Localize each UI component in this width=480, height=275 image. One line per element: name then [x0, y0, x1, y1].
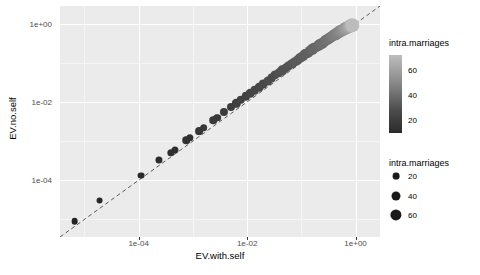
size-legend-label: 40: [408, 191, 417, 200]
x-tick-mark: [247, 237, 248, 240]
y-tick-label: 1e-02: [8, 97, 52, 106]
x-tick-mark: [356, 237, 357, 240]
size-legend-dot: [390, 209, 401, 220]
colorbar-tick-mark: [402, 120, 405, 121]
colorbar-tick-mark: [402, 70, 405, 71]
x-axis-title: EV.with.self: [60, 250, 380, 261]
y-tick-label: 1e-04: [8, 176, 52, 185]
x-tick-mark: [139, 237, 140, 240]
chart-root: EV.no.self 1e-041e-021e+00 1e-041e-021e+…: [0, 0, 480, 275]
x-tick-label: 1e-04: [128, 239, 148, 248]
size-legend-title: intra.marriages: [389, 158, 449, 168]
colorbar-legend-title: intra.marriages: [389, 38, 449, 48]
x-tick-label: 1e-02: [237, 239, 257, 248]
scatter-points: [60, 6, 380, 237]
scatter-point: [71, 218, 78, 225]
size-legend-label: 60: [408, 211, 417, 220]
x-tick-label: 1e+00: [344, 239, 366, 248]
colorbar-tick-mark: [402, 95, 405, 96]
colorbar-tick-label: 60: [408, 66, 417, 75]
scatter-point: [187, 134, 194, 141]
scatter-point: [200, 124, 208, 132]
scatter-point: [171, 146, 178, 153]
size-legend-label: 20: [408, 172, 417, 181]
plot-panel: [60, 6, 380, 237]
y-axis-ticks: 1e-041e-021e+00: [8, 0, 52, 275]
scatter-point: [138, 172, 145, 179]
scatter-point: [156, 156, 163, 163]
y-tick-label: 1e+00: [8, 19, 52, 28]
colorbar: [389, 55, 402, 133]
scatter-point: [213, 114, 221, 122]
colorbar-tick-label: 20: [408, 116, 417, 125]
scatter-point: [96, 197, 103, 204]
colorbar-tick-label: 40: [408, 91, 417, 100]
size-legend-dot: [393, 173, 400, 180]
scatter-point: [346, 18, 360, 32]
size-legend-dot: [392, 191, 401, 200]
